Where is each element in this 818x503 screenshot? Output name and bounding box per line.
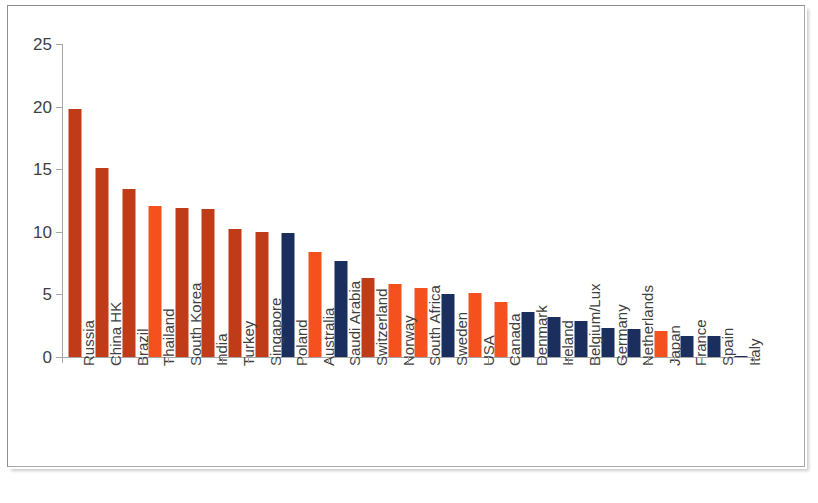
bar-slot [727,44,754,357]
y-axis-tick-mark [56,232,62,233]
x-axis-labels: RussiaChina HKBrazilThailandSouth KoreaI… [62,366,754,486]
x-axis-tick-mark [302,357,303,363]
x-axis-tick-mark [674,357,675,363]
bar-slot [461,44,488,357]
x-axis-tick-mark [115,357,116,363]
x-axis-tick-mark [222,357,223,363]
x-axis-tick-mark [355,357,356,363]
x-axis-tick-label: South Korea [188,283,203,366]
x-axis-tick-mark [727,357,728,363]
y-axis-tick-label: 10 [6,223,52,240]
x-axis-tick-mark [195,357,196,363]
x-axis-tick-label: Saudi Arabia [347,281,362,366]
x-axis-tick-mark [568,357,569,363]
x-axis-tick-mark [328,357,329,363]
x-axis-tick-label: Belgium/Lux [587,283,602,366]
x-axis-tick-label: Singapore [268,298,283,366]
y-axis-tick-label: 20 [6,98,52,115]
x-axis-tick-mark [408,357,409,363]
y-axis-tick-label: 15 [6,161,52,178]
x-axis-tick-mark [701,357,702,363]
x-axis-tick-mark [461,357,462,363]
bar-slot [701,44,728,357]
bar-slot [488,44,515,357]
y-axis-tick-label: 25 [6,36,52,53]
x-axis-tick-label: Switzerland [374,288,389,366]
bar-slot [674,44,701,357]
x-axis-tick-mark [142,357,143,363]
y-axis-tick-label: 5 [6,286,52,303]
y-axis-tick-mark [56,107,62,108]
y-axis-tick-mark [56,169,62,170]
x-axis-tick-mark [275,357,276,363]
x-axis-tick-mark [754,357,755,363]
x-axis-tick-mark [62,357,63,363]
chart-page: 0510152025 RussiaChina HKBrazilThailandS… [0,0,818,503]
x-axis-tick-mark [594,357,595,363]
bar-slot [62,44,89,357]
x-axis-tick-mark [488,357,489,363]
y-axis-tick-mark [56,44,62,45]
y-axis-labels: 0510152025 [0,0,52,503]
x-axis-tick-mark [621,357,622,363]
x-axis-tick-label: South Africa [427,285,442,366]
y-axis-tick-mark [56,294,62,295]
x-axis-tick-mark [168,357,169,363]
x-axis-tick-mark [435,357,436,363]
x-axis-tick-label: Netherlands [640,285,655,366]
x-axis-tick-mark [381,357,382,363]
x-axis-tick-mark [541,357,542,363]
x-axis-tick-mark [89,357,90,363]
x-axis-tick-mark [248,357,249,363]
y-axis-tick-label: 0 [6,349,52,366]
x-axis-tick-mark [514,357,515,363]
x-axis-tick-mark [648,357,649,363]
bar-slot [222,44,249,357]
